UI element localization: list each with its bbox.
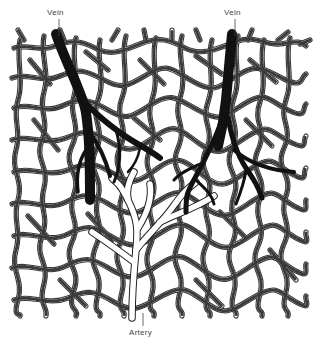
vein-right-label: Vein <box>224 8 241 17</box>
capillary-diagram <box>0 0 316 346</box>
artery-label: Artery <box>129 328 152 337</box>
vein-left-label: Vein <box>47 8 64 17</box>
